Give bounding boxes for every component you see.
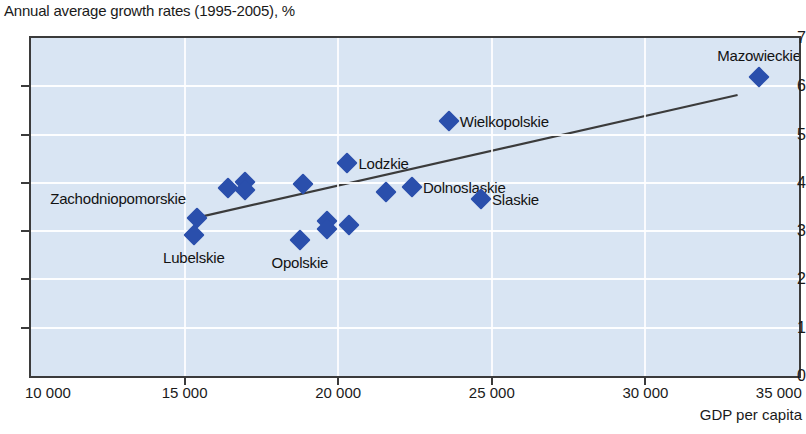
y-axis-tick-label: 6 [782, 77, 806, 95]
data-point-label: Opolskie [271, 253, 328, 270]
plot-inner: ZachodniopomorskieLubelskieOpolskieLodzk… [31, 38, 799, 376]
y-axis-tick-label: 4 [782, 174, 806, 192]
data-point-label: Wielkopolskie [460, 113, 549, 130]
gridline-horizontal [31, 278, 799, 280]
y-axis-tick-label: 5 [782, 126, 806, 144]
x-axis-label: GDP per capita [700, 406, 802, 423]
y-axis-tick-label: 0 [782, 367, 806, 385]
data-point-marker[interactable] [401, 176, 422, 197]
x-axis-tick-mark [491, 378, 493, 385]
x-axis-tick-label: 10 000 [25, 384, 71, 401]
data-point-marker[interactable] [438, 110, 459, 131]
y-axis-tick-mark [21, 230, 29, 232]
trendline [31, 38, 799, 376]
gridline-horizontal [31, 327, 799, 329]
y-axis-tick-label: 1 [782, 319, 806, 337]
data-point-label: Lodzkie [358, 154, 408, 171]
data-point-label: Slaskie [492, 191, 539, 208]
x-axis-tick-mark [644, 378, 646, 385]
x-axis-tick-mark [337, 378, 339, 385]
data-point-label: Lubelskie [163, 249, 225, 266]
y-axis-tick-mark [21, 182, 29, 184]
x-axis-tick-label: 25 000 [469, 384, 515, 401]
data-point-marker[interactable] [186, 207, 207, 228]
y-axis-tick-mark [21, 134, 29, 136]
x-axis-tick-mark [184, 378, 186, 385]
data-point-marker[interactable] [289, 229, 310, 250]
y-axis-tick-mark [21, 85, 29, 87]
y-axis-tick-label: 3 [782, 222, 806, 240]
gridline-vertical [184, 38, 186, 376]
data-point-label: Zachodniopomorskie [50, 189, 186, 206]
data-point-label: Mazowieckie [717, 46, 799, 63]
x-axis-tick-label: 35 000 [756, 384, 802, 401]
x-axis-tick-label: 30 000 [622, 384, 668, 401]
x-axis-tick-label: 20 000 [315, 384, 361, 401]
x-axis-tick-label: 15 000 [162, 384, 208, 401]
y-axis-tick-label: 2 [782, 270, 806, 288]
data-point-marker[interactable] [338, 215, 359, 236]
gridline-horizontal [31, 230, 799, 232]
data-point-marker[interactable] [292, 174, 313, 195]
data-point-marker[interactable] [375, 181, 396, 202]
y-axis-tick-label: 7 [782, 29, 806, 47]
y-axis-tick-mark [21, 327, 29, 329]
data-point-marker[interactable] [183, 224, 204, 245]
gridline-vertical [644, 38, 646, 376]
data-point-marker[interactable] [337, 152, 358, 173]
y-axis-tick-mark [21, 278, 29, 280]
gridline-vertical [337, 38, 339, 376]
plot-area: ZachodniopomorskieLubelskieOpolskieLodzk… [29, 36, 801, 378]
chart-title: Annual average growth rates (1995-2005),… [4, 2, 295, 19]
gridline-horizontal [31, 134, 799, 136]
data-point-marker[interactable] [748, 66, 769, 87]
scatter-chart: Annual average growth rates (1995-2005),… [0, 0, 806, 434]
gridline-horizontal [31, 85, 799, 87]
